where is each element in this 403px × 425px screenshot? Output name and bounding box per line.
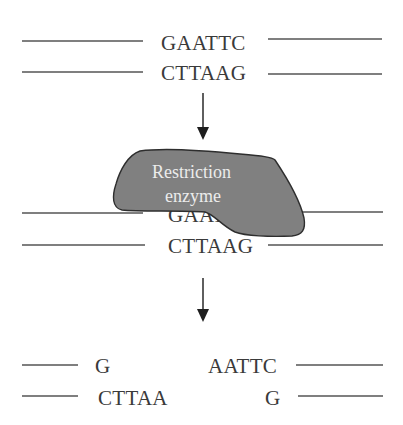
stage1-top-sequence: GAATTC <box>161 31 246 55</box>
enzyme-label-line1: Restriction <box>152 162 231 182</box>
stage3-right-bottom-sequence: G <box>265 386 280 410</box>
down-arrow-icon <box>197 278 209 322</box>
stage3-right-fragment: AATTC G <box>208 354 383 410</box>
enzyme-label-line2: enzyme <box>165 186 221 206</box>
restriction-digest-diagram: GAATTC CTTAAG GAAT CTTAAG Restriction en… <box>0 0 403 425</box>
stage2-bottom-sequence: CTTAAG <box>168 234 253 258</box>
stage3-left-bottom-sequence: CTTAA <box>98 386 168 410</box>
stage2-enzyme-bound: GAAT CTTAAG Restriction enzyme <box>22 150 383 258</box>
stage1-bottom-sequence: CTTAAG <box>161 61 246 85</box>
down-arrow-icon <box>197 93 209 140</box>
stage3-right-top-sequence: AATTC <box>208 354 277 378</box>
stage3-left-top-sequence: G <box>95 354 110 378</box>
stage1-intact-dna: GAATTC CTTAAG <box>22 31 382 85</box>
stage3-left-fragment: G CTTAA <box>22 354 168 410</box>
